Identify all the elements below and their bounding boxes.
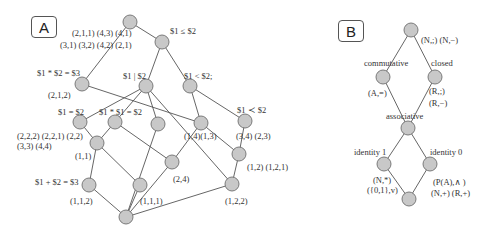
edge-B-top-comm [383,30,411,77]
label-A-2: $1 ≤ $2 [170,26,196,36]
node-A-n3 [75,77,89,91]
label-A-17: $1 + $2 = $3 [35,177,79,187]
node-B-id0 [423,157,437,171]
node-B-comm [376,70,390,84]
label-B-0: (N,;) (N,−) [421,35,458,45]
node-A-n11 [90,136,104,150]
node-B-assoc [401,121,415,135]
node-B-id1 [377,157,391,171]
panel-b-label: B [338,20,364,42]
node-A-n122 [225,177,239,191]
node-A-n24 [165,155,179,169]
label-A-5: $1 | $2 [123,71,146,81]
label-A-1: (3,1) (3,2) (4,2) (2,1) [60,40,132,50]
panel-a-label: A [31,16,57,38]
node-B-closed [428,70,442,84]
label-A-6: $1 < $2; [184,71,212,81]
label-B-11: (P(A),∧ ) [433,177,466,187]
label-B-4: (R,;) [429,86,445,96]
node-A-top [123,15,137,29]
node-A-prec [238,114,252,128]
label-A-18: (1,1,2) [70,196,93,206]
label-A-8: $1 * $1 = $2 [99,107,142,117]
label-B-7: identity 1 [354,147,386,157]
label-B-5: (R,−) [429,98,447,108]
node-A-c4 [194,116,208,130]
node-B-bot [402,192,416,206]
label-B-10: ({0,1},v) [367,185,398,195]
node-A-mul [108,115,122,129]
node-A-c3 [151,117,165,131]
label-B-8: identity 0 [430,147,462,157]
label-A-7: $1 = $2 [58,107,84,117]
node-A-bot [119,210,133,224]
label-A-16: (2,4) [173,174,189,184]
label-A-9: $1 ≺ $2 [237,105,266,115]
node-A-add [82,178,96,192]
label-A-3: $1 * $2 = $3 [37,68,80,78]
node-A-le [155,35,169,49]
label-A-20: (1,2,2) [225,196,248,206]
label-A-15: (1,2) (1,2,1) [247,162,288,172]
edge-A-lt-prec [190,86,245,121]
label-B-6: associative [386,111,423,121]
label-B-3: (A,=) [368,88,387,98]
label-B-2: closed [431,58,453,68]
label-A-10: (2,2,2) (2,2,1) (2,2) [17,131,83,141]
label-A-4: (2,1,2) [48,90,71,100]
node-A-lt [183,79,197,93]
label-A-19: (1,1,1) [140,196,163,206]
node-A-div [139,79,153,93]
label-A-12: (1,1) [75,151,91,161]
node-B-top [404,23,418,37]
label-B-12: (N,+) (R,+) [431,188,470,198]
label-A-13: (1,4)(1,3) [184,131,217,141]
edge-A-n11-n111 [97,143,140,185]
label-B-9: (N,*) [373,175,391,185]
label-B-1: commutative [364,58,408,68]
label-A-0: (2,1,1) (4,3) (4,1) [72,28,131,38]
node-A-eq [73,115,87,129]
node-A-n111 [133,178,147,192]
label-A-11: (3,3) (4,4) [17,141,52,151]
label-A-14: (3,4) (2,3) [236,131,271,141]
edge-A-n24-bot [126,162,172,217]
node-A-n12 [232,147,246,161]
